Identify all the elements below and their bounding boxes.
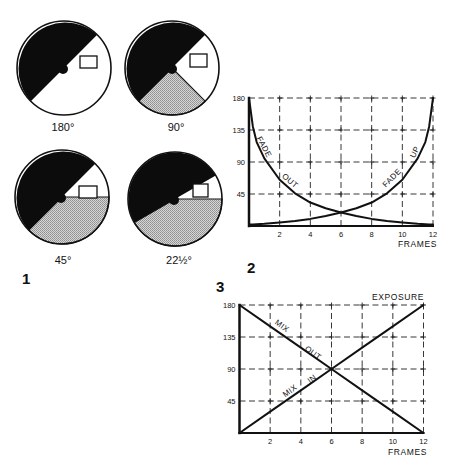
x-tick-label: 2 (268, 437, 272, 446)
x-tick-label: 12 (419, 437, 427, 446)
grid-cross-mark (400, 96, 405, 101)
shutter-angle-label: 90° (168, 121, 185, 133)
grid-cross-mark (308, 96, 313, 101)
grid-cross-mark (308, 160, 313, 165)
grid-cross-mark (339, 192, 344, 197)
grid-cross-mark (329, 399, 334, 404)
grid-cross-mark (369, 96, 374, 101)
grid-cross-mark (390, 367, 395, 372)
x-tick-label: 6 (329, 437, 333, 446)
x-tick-label: 4 (308, 230, 312, 239)
grid-cross-mark (339, 160, 344, 165)
grid-cross-mark (369, 128, 374, 133)
panel-number-2: 2 (247, 259, 255, 276)
y-tick-label: 45 (237, 190, 245, 199)
grid-cross-mark (390, 303, 395, 308)
x-tick-label: 6 (339, 230, 343, 239)
grid-cross-mark (360, 335, 365, 340)
panel-2-fade-chart: 459013518024681012 FRAMES FADE OUT FADE … (232, 94, 437, 276)
grid-cross-mark (298, 335, 303, 340)
x-tick-label: 2 (278, 230, 282, 239)
shutter-hub (169, 195, 179, 205)
grid (249, 96, 436, 227)
curve-label-fade-up-2: UP (408, 145, 421, 160)
shutter-hub (56, 193, 66, 203)
film-gate-aperture (79, 186, 97, 198)
shutter-diagram-90: 90° (125, 21, 219, 133)
grid-cross-mark (421, 335, 426, 340)
x-tick-label: 4 (299, 437, 303, 446)
grid-cross-mark (400, 192, 405, 197)
y-tick-label: 135 (232, 126, 245, 135)
curve-label-fade-up-1: FADE (381, 167, 403, 189)
grid-cross-mark (329, 303, 334, 308)
panel-3-mix-chart: 3 EXPOSURE 459013518024681012 FRAMES MIX… (216, 278, 428, 457)
y-tick-label: 90 (227, 365, 235, 374)
y-tick-label: 45 (227, 397, 235, 406)
line-label-mix-out-2: OUT (303, 344, 323, 362)
grid-cross-mark (431, 128, 436, 133)
grid-cross-mark (277, 128, 282, 133)
grid-cross-mark (339, 96, 344, 101)
x-tick-label: 12 (429, 230, 437, 239)
shutter-diagram-22-5: 22½° (128, 152, 222, 266)
grid-cross-mark (360, 399, 365, 404)
grid-cross-mark (308, 128, 313, 133)
mix-chart-plot: 459013518024681012 (223, 301, 428, 446)
grid-cross-mark (369, 192, 374, 197)
shutter-angle-label: 22½° (166, 254, 192, 266)
film-gate-aperture (190, 54, 207, 67)
line-label-mix-in-2: IN (306, 373, 318, 385)
chart-title-exposure: EXPOSURE (372, 292, 424, 302)
grid-cross-mark (400, 128, 405, 133)
shutter-hub (167, 64, 177, 74)
grid-cross-mark (369, 160, 374, 165)
shutter-hub (58, 64, 68, 74)
grid-cross-mark (268, 303, 273, 308)
grid-cross-mark (298, 303, 303, 308)
grid-cross-mark (400, 160, 405, 165)
grid-cross-mark (268, 335, 273, 340)
grid-cross-mark (421, 399, 426, 404)
shutter-diagram-45: 45° (15, 150, 109, 266)
x-axis-title: FRAMES (398, 239, 437, 249)
grid-cross-mark (329, 335, 334, 340)
grid-cross-mark (431, 160, 436, 165)
y-tick-label: 135 (223, 333, 236, 342)
figure-canvas: 180° 90° 45° (0, 0, 451, 474)
x-tick-label: 10 (389, 437, 397, 446)
grid-cross-mark (390, 335, 395, 340)
film-gate-aperture (80, 56, 97, 68)
grid-cross-mark (390, 399, 395, 404)
shutter-angle-label: 180° (52, 121, 75, 133)
panel-number-3: 3 (216, 278, 224, 295)
curve-label-fade-out-1: FADE (255, 135, 274, 159)
grid-cross-mark (421, 367, 426, 372)
x-tick-label: 8 (370, 230, 374, 239)
curve-label-fade-out-2: OUT (280, 172, 300, 191)
y-tick-label: 90 (237, 158, 245, 167)
grid-cross-mark (308, 192, 313, 197)
fade-chart-plot: 459013518024681012 (232, 94, 437, 239)
panel-1-shutter-diagrams: 180° 90° 45° (15, 21, 222, 287)
x-tick-label: 8 (360, 437, 364, 446)
grid-cross-mark (339, 128, 344, 133)
shutter-diagram-180: 180° (17, 21, 111, 133)
y-tick-label: 180 (223, 301, 236, 310)
grid-cross-mark (298, 399, 303, 404)
grid-cross-mark (268, 399, 273, 404)
grid-cross-mark (277, 192, 282, 197)
shutter-angle-label: 45° (55, 254, 72, 266)
grid-cross-mark (277, 96, 282, 101)
x-axis-title: FRAMES (388, 447, 427, 457)
film-gate-aperture (193, 184, 208, 197)
grid-cross-mark (360, 303, 365, 308)
x-tick-label: 10 (398, 230, 406, 239)
grid-cross-mark (431, 192, 436, 197)
grid-cross-mark (360, 367, 365, 372)
line-label-mix-out-1: MIX (273, 318, 291, 335)
grid-cross-mark (268, 367, 273, 372)
panel-number-1: 1 (22, 270, 30, 287)
grid-cross-mark (277, 160, 282, 165)
grid-cross-mark (298, 367, 303, 372)
